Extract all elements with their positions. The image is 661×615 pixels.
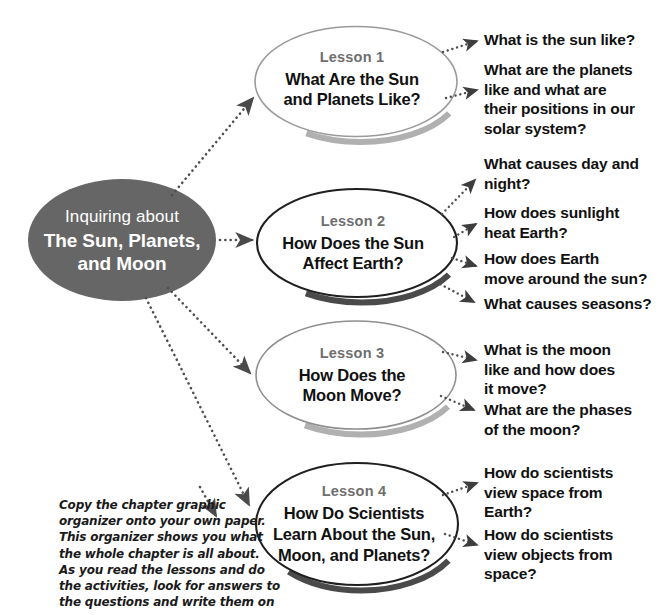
lesson-4-title-line: How Do Scientists bbox=[273, 503, 435, 524]
lesson-4-title-line: Learn About the Sun, bbox=[273, 524, 435, 545]
question-line: How do scientists bbox=[484, 463, 659, 483]
question-lesson-4-1: How do scientists view space from Earth? bbox=[484, 463, 659, 522]
question-line: of the moon? bbox=[484, 420, 661, 440]
question-line: view objects from bbox=[484, 545, 659, 565]
lesson-node-3[interactable]: Lesson 3 How Does the Moon Move? bbox=[249, 318, 455, 430]
question-line: What are the planets bbox=[484, 60, 659, 80]
question-line: How do scientists bbox=[484, 525, 659, 545]
caption-line: the whole chapter is all about. bbox=[59, 546, 255, 562]
question-line: solar system? bbox=[484, 119, 659, 139]
question-lesson-2-4: What causes seasons? bbox=[484, 294, 661, 314]
question-line: How does Earth bbox=[484, 249, 659, 269]
graphic-organizer-canvas: Inquiring about The Sun, Planets, and Mo… bbox=[0, 0, 661, 615]
lesson-1-title-line: What Are the Sun bbox=[284, 69, 421, 89]
question-line: Earth? bbox=[484, 502, 659, 522]
lesson-node-4[interactable]: Lesson 4 How Do Scientists Learn About t… bbox=[250, 460, 458, 588]
question-line: their positions in our bbox=[484, 99, 659, 119]
caption-line: the questions and write them on bbox=[59, 594, 255, 610]
lesson-3-title-line: How Does the bbox=[299, 365, 406, 385]
caption-line: This organizer shows you what bbox=[59, 529, 255, 545]
connector-center-to-lesson-4 bbox=[146, 298, 249, 505]
lesson-node-2[interactable]: Lesson 2 How Does the Sun Affect Earth? bbox=[250, 186, 456, 298]
question-line: How does sunlight bbox=[484, 203, 659, 223]
lesson-3-label: Lesson 3 bbox=[320, 344, 384, 362]
center-node: Inquiring about The Sun, Planets, and Mo… bbox=[28, 179, 216, 301]
lesson-2-title: How Does the Sun Affect Earth? bbox=[282, 233, 424, 273]
lesson-2-label: Lesson 2 bbox=[321, 212, 385, 230]
caption-line: organizer onto your own paper. bbox=[59, 513, 255, 529]
center-node-title-line: and Moon bbox=[44, 252, 201, 275]
center-node-subtitle: Inquiring about bbox=[65, 206, 179, 227]
question-lesson-3-2: What are the phases of the moon? bbox=[484, 400, 661, 439]
question-lesson-2-3: How does Earth move around the sun? bbox=[484, 249, 659, 288]
lesson-4-title-line: Moon, and Planets? bbox=[273, 545, 435, 566]
lesson-3-title-line: Moon Move? bbox=[299, 385, 406, 405]
question-line: What causes day and bbox=[484, 154, 659, 174]
lesson-3-title: How Does the Moon Move? bbox=[299, 365, 406, 405]
question-lesson-4-2: How do scientists view objects from spac… bbox=[484, 525, 659, 584]
question-line: What is the moon bbox=[484, 340, 659, 360]
connector-lesson-2-q2 bbox=[454, 224, 476, 237]
instruction-caption: Copy the chapter graphic organizer onto … bbox=[59, 497, 255, 610]
question-line: view space from bbox=[484, 483, 659, 503]
question-lesson-2-1: What causes day and night? bbox=[484, 154, 659, 193]
lesson-2-title-line: Affect Earth? bbox=[282, 253, 424, 273]
center-node-title: The Sun, Planets, and Moon bbox=[44, 229, 201, 275]
center-node-title-line: The Sun, Planets, bbox=[44, 229, 201, 252]
lesson-node-1[interactable]: Lesson 1 What Are the Sun and Planets Li… bbox=[248, 21, 456, 135]
lesson-4-label: Lesson 4 bbox=[322, 482, 386, 500]
lesson-1-title-line: and Planets Like? bbox=[284, 89, 421, 109]
question-line: What are the phases bbox=[484, 400, 661, 420]
question-line: What causes seasons? bbox=[484, 294, 661, 314]
question-line: space? bbox=[484, 564, 659, 584]
caption-line: Copy the chapter graphic bbox=[59, 497, 255, 513]
lesson-4-title: How Do Scientists Learn About the Sun, M… bbox=[273, 503, 435, 566]
lesson-1-label: Lesson 1 bbox=[320, 48, 384, 66]
question-line: it move? bbox=[484, 379, 659, 399]
question-lesson-1-1: What is the sun like? bbox=[484, 30, 659, 50]
question-line: move around the sun? bbox=[484, 269, 659, 289]
question-lesson-2-2: How does sunlight heat Earth? bbox=[484, 203, 659, 242]
question-lesson-3-1: What is the moon like and how does it mo… bbox=[484, 340, 659, 399]
caption-line: the activities, look for answers to bbox=[59, 578, 255, 594]
question-line: like and what are bbox=[484, 80, 659, 100]
question-line: What is the sun like? bbox=[484, 30, 659, 50]
lesson-1-title: What Are the Sun and Planets Like? bbox=[284, 69, 421, 109]
question-line: night? bbox=[484, 174, 659, 194]
question-lesson-1-2: What are the planets like and what are t… bbox=[484, 60, 659, 138]
question-line: heat Earth? bbox=[484, 223, 659, 243]
lesson-2-title-line: How Does the Sun bbox=[282, 233, 424, 253]
caption-line: As you read the lessons and do bbox=[59, 562, 255, 578]
question-line: like and how does bbox=[484, 360, 659, 380]
